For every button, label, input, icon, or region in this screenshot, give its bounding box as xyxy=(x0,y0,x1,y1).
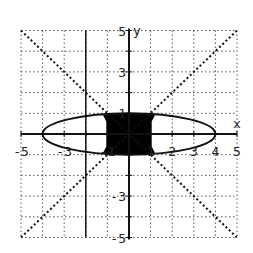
y-tick-label: -5 xyxy=(110,231,126,246)
y-tick-label: 5 xyxy=(118,24,126,39)
y-axis-label: y xyxy=(133,23,141,38)
axes xyxy=(21,28,237,239)
x-tick-label: 1 xyxy=(147,144,155,159)
y-tick-label: 3 xyxy=(118,65,126,80)
y-tick-label: -3 xyxy=(110,189,126,204)
x-tick-label: -3 xyxy=(56,144,72,159)
y-tick-label: 1 xyxy=(118,106,126,121)
x-tick-label: 4 xyxy=(211,144,219,159)
x-tick-label: -5 xyxy=(13,144,29,159)
x-tick-label: -1 xyxy=(100,144,116,159)
x-axis-label: x xyxy=(233,116,241,131)
x-tick-label: 2 xyxy=(168,144,176,159)
graph-plot: -5-3-112345531-3-5 x y xyxy=(0,0,253,253)
x-tick-label: 5 xyxy=(233,144,241,159)
x-tick-label: 3 xyxy=(190,144,198,159)
